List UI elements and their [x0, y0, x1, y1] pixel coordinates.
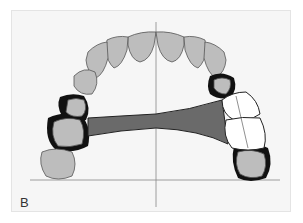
palatal-bar-connector: [88, 100, 228, 144]
anterior-teeth: [74, 32, 226, 94]
replacement-teeth: [222, 92, 265, 150]
panel-label: B: [20, 195, 29, 210]
dental-arch-diagram: [0, 0, 303, 223]
